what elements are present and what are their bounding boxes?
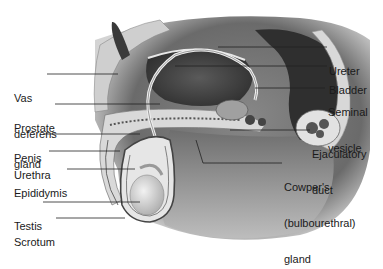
scrotum-shape bbox=[121, 137, 175, 222]
label-cowpers-gland: Cowper's (bulbourethral) gland bbox=[284, 157, 356, 269]
bladder-shape bbox=[146, 49, 252, 106]
label-line: Seminal bbox=[328, 106, 368, 118]
label-line: Scrotum bbox=[14, 236, 55, 248]
label-line: gland bbox=[284, 253, 356, 265]
label-line: (bulbourethral) bbox=[284, 217, 356, 229]
label-line: Cowper's bbox=[284, 181, 356, 193]
label-scrotum: Scrotum bbox=[14, 212, 55, 269]
